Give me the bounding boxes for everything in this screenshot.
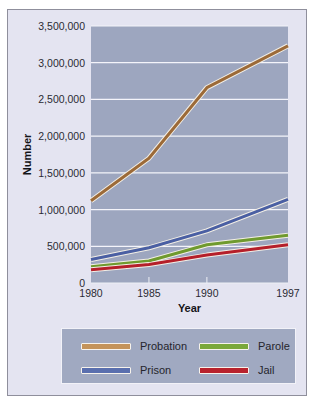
x-tick-label: 1990 [195,287,219,299]
plot-area [91,26,288,283]
legend-swatch-parole [199,343,249,350]
chart-legend: Probation Parole Prison Jail [61,328,296,384]
legend-item-prison: Prison [81,364,171,376]
legend-swatch-jail [199,367,249,374]
legend-swatch-prison [81,367,131,374]
y-tick-label: 1,000,000 [38,204,85,216]
legend-label: Prison [140,364,171,376]
y-tick-label: 3,500,000 [38,20,85,32]
y-tick-label: 2,500,000 [38,93,85,105]
legend-item-parole: Parole [199,340,290,352]
x-tick-label: 1997 [276,287,300,299]
y-tick-label: 2,000,000 [38,130,85,142]
x-axis-title: Year [178,302,202,314]
y-axis-title: Number [21,133,33,175]
legend-swatch-probation [81,343,131,350]
x-tick-label: 1980 [79,287,103,299]
y-tick-label: 3,000,000 [38,57,85,69]
legend-label: Parole [258,340,290,352]
y-tick-label: 1,500,000 [38,167,85,179]
legend-item-jail: Jail [199,364,275,376]
x-tick-label: 1985 [137,287,161,299]
y-tick-label: 500,000 [47,240,85,252]
legend-item-probation: Probation [81,340,187,352]
legend-label: Jail [258,364,275,376]
legend-label: Probation [140,340,187,352]
